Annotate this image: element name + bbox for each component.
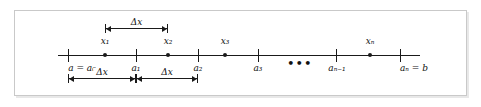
measure-label-delta-x: Δx <box>93 68 111 77</box>
tick-a2 <box>198 49 199 62</box>
arrow-right-icon <box>192 76 197 82</box>
sample-dot-xn <box>368 53 372 57</box>
sample-dot-x2 <box>166 53 170 57</box>
measure-cap-right <box>167 24 168 33</box>
measure-delta-x-bottom-2: Δx <box>136 74 198 83</box>
arrow-right-icon <box>162 26 167 32</box>
ellipsis-marker: ••• <box>287 58 313 69</box>
tick-a1 <box>136 49 137 62</box>
riemann-sum-partition-figure: a = a₀ a₁ a₂ a₃ aₙ₋₁ aₙ = b x₁ x₂ x₃ xₙ … <box>0 0 481 107</box>
sample-dot-x1 <box>103 53 107 57</box>
sample-label-x3: x₃ <box>221 37 230 46</box>
measure-label-delta-x: Δx <box>128 18 146 27</box>
tick-label-a3: a₃ <box>254 64 263 73</box>
sample-dot-x3 <box>223 53 227 57</box>
measure-line <box>105 28 168 29</box>
tick-label-an: aₙ = b <box>400 64 428 73</box>
tick-label-an-1: aₙ₋₁ <box>328 64 345 73</box>
sample-label-xn: xₙ <box>366 37 375 46</box>
tick-an-1 <box>336 49 337 62</box>
arrow-left-icon <box>69 76 74 82</box>
measure-line <box>136 78 198 79</box>
tick-label-a1: a₁ <box>132 64 141 73</box>
number-line-axis <box>58 55 420 56</box>
tick-a0 <box>68 49 69 62</box>
measure-delta-x-bottom-1: Δx <box>68 74 136 83</box>
tick-an <box>400 49 401 62</box>
measure-label-delta-x: Δx <box>158 68 176 77</box>
measure-delta-x-top: Δx <box>105 24 168 33</box>
measure-cap-right <box>197 74 198 83</box>
tick-label-a0: a = a₀ <box>68 64 96 73</box>
tick-a3 <box>258 49 259 62</box>
arrow-left-icon <box>106 26 111 32</box>
sample-label-x1: x₁ <box>101 37 110 46</box>
tick-label-a2: a₂ <box>194 64 203 73</box>
measure-line <box>68 78 136 79</box>
arrow-left-icon <box>137 76 142 82</box>
arrow-right-icon <box>130 76 135 82</box>
sample-label-x2: x₂ <box>164 37 173 46</box>
